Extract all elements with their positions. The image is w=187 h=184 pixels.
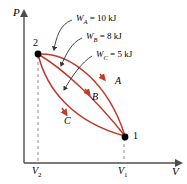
work-c-value: = 5 kJ <box>108 49 132 59</box>
work-a-symbol: W <box>76 13 84 23</box>
x-axis-label: V <box>172 166 179 177</box>
state-marker-group <box>35 51 129 141</box>
work-a-value: = 10 kJ <box>87 13 116 23</box>
work-c-symbol: W <box>96 49 104 59</box>
leader-line-a <box>54 20 72 50</box>
process-path-b <box>38 54 125 136</box>
process-path-c <box>38 54 125 136</box>
dashed-guide-group <box>38 56 124 163</box>
work-c-label: WC = 5 kJ <box>96 50 132 61</box>
process-path-a <box>38 54 125 136</box>
path-label-a: A <box>115 76 121 86</box>
y-axis-label: P <box>13 7 20 18</box>
process-path-group <box>38 54 125 136</box>
work-b-symbol: W <box>86 31 94 41</box>
work-b-label: WB = 8 kJ <box>86 32 122 43</box>
path-label-b: B <box>92 92 98 102</box>
x-tick-v2-subscript: 2 <box>38 171 42 179</box>
path-label-c: C <box>64 116 71 126</box>
x-tick-v1: V1 <box>118 166 128 179</box>
state-2-label: 2 <box>33 38 38 48</box>
state-1-marker <box>122 134 129 141</box>
x-tick-v2: V2 <box>32 166 42 179</box>
work-b-value: = 8 kJ <box>97 31 121 41</box>
x-tick-v1-subscript: 1 <box>124 171 128 179</box>
work-a-label: WA = 10 kJ <box>76 14 116 25</box>
state-1-label: 1 <box>133 131 138 141</box>
direction-arrow-a <box>100 74 104 79</box>
direction-arrow-c <box>62 108 66 114</box>
pv-diagram-figure: P V V2 V1 2 1 A B C WA = 10 kJ WB = 8 kJ… <box>0 0 187 184</box>
state-2-marker <box>35 51 42 58</box>
